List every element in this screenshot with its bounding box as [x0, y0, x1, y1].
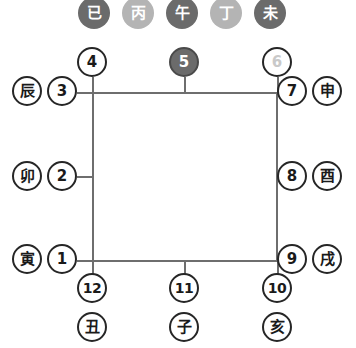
- branch-node-9[interactable]: 亥: [262, 312, 292, 342]
- stem-node-2[interactable]: 丙: [122, 0, 154, 29]
- branch-node-7[interactable]: 丑: [77, 312, 107, 342]
- number-node-2[interactable]: 2: [47, 161, 77, 191]
- connector-5-top: [184, 77, 186, 92]
- connector-3-left: [77, 92, 92, 94]
- number-node-9[interactable]: 9: [277, 244, 307, 274]
- stem-node-3[interactable]: 午: [166, 0, 198, 29]
- number-node-5[interactable]: 5: [169, 47, 199, 77]
- number-node-10[interactable]: 10: [262, 273, 292, 303]
- branch-node-8[interactable]: 子: [169, 312, 199, 342]
- stem-node-5[interactable]: 未: [254, 0, 286, 29]
- number-node-11[interactable]: 11: [169, 273, 199, 303]
- square-edge-left: [92, 92, 94, 261]
- square-edge-top: [92, 92, 278, 94]
- connector-4-top: [92, 77, 94, 92]
- branch-node-5[interactable]: 寅: [12, 244, 42, 274]
- number-node-4[interactable]: 4: [77, 47, 107, 77]
- number-node-12[interactable]: 12: [77, 273, 107, 303]
- connector-2-left: [77, 176, 92, 178]
- branch-node-2[interactable]: 申: [312, 76, 342, 106]
- branch-node-4[interactable]: 酉: [312, 161, 342, 191]
- number-node-1[interactable]: 1: [47, 244, 77, 274]
- connector-1-left: [77, 260, 92, 262]
- branch-node-1[interactable]: 辰: [12, 76, 42, 106]
- branch-node-3[interactable]: 卯: [12, 161, 42, 191]
- stem-node-1[interactable]: 已: [78, 0, 110, 29]
- number-node-6[interactable]: 6: [262, 47, 292, 77]
- diagram-canvas: 已丙午丁未456372819121110辰申卯酉寅戌丑子亥: [0, 0, 356, 348]
- number-node-3[interactable]: 3: [47, 76, 77, 106]
- branch-node-6[interactable]: 戌: [312, 244, 342, 274]
- number-node-8[interactable]: 8: [277, 161, 307, 191]
- stem-node-4[interactable]: 丁: [210, 0, 242, 29]
- number-node-7[interactable]: 7: [277, 76, 307, 106]
